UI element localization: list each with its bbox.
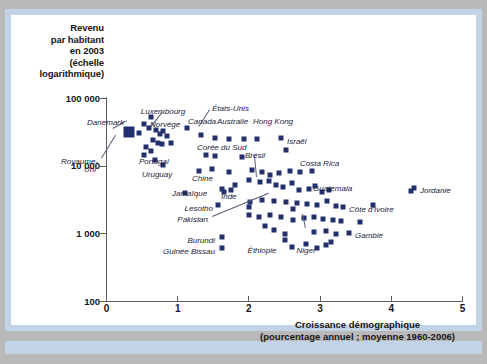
figure-root: Revenu par habitant en 2003 (échelle log… (0, 0, 487, 364)
data-point (276, 170, 281, 175)
data-point (239, 155, 244, 160)
data-point (241, 136, 246, 141)
y-axis-line (106, 97, 107, 302)
marker-jamaique-row (229, 188, 234, 193)
y-tick-mark (100, 233, 106, 234)
data-point-label: États-Unis (212, 104, 249, 113)
data-point (268, 212, 273, 217)
data-point (262, 224, 267, 229)
data-point (199, 132, 204, 137)
data-point-label: Jordanie (420, 186, 451, 195)
data-point (291, 207, 296, 212)
data-point (271, 227, 276, 232)
data-point-label: Burundi (187, 236, 215, 245)
data-point-label: Côte d'Ivoire (349, 205, 394, 214)
data-point-label: Norvège (150, 120, 180, 129)
data-point (141, 121, 146, 126)
data-point-label: Luxembourg (141, 107, 185, 116)
data-point (148, 149, 153, 154)
data-point (339, 218, 344, 223)
data-point-label: Chine (192, 174, 213, 183)
data-point-label: Corée du Sud (197, 143, 246, 152)
y-tick-label: 1 000 (38, 228, 100, 239)
x-tick-label: 3 (317, 303, 323, 314)
x-tick-mark (320, 296, 321, 302)
data-point (212, 135, 217, 140)
data-point (278, 215, 283, 220)
data-point (282, 237, 287, 242)
data-point (283, 199, 288, 204)
data-point (325, 198, 330, 203)
data-point (282, 231, 287, 236)
data-point (212, 154, 217, 159)
data-point (255, 136, 260, 141)
x-axis-title-line-2: (pourcentage annuel ; moyenne 1960-2006) (235, 331, 480, 343)
data-point-label: Uruguay (142, 170, 172, 179)
y-tick-mark (100, 166, 106, 167)
x-axis-title-line-1: Croissance démographique (235, 319, 480, 331)
y-tick-mark (100, 301, 106, 302)
marker-guinee-bissau (220, 246, 225, 251)
data-point (226, 169, 231, 174)
y-axis-title-line-5: logarithmique) (8, 68, 104, 80)
data-point-label: Gambie (355, 231, 383, 240)
x-tick-mark (177, 296, 178, 302)
marker-inde (222, 190, 227, 195)
marker-lesotho (216, 203, 221, 208)
x-axis-title: Croissance démographique (pourcentage an… (235, 319, 480, 343)
data-point (312, 214, 317, 219)
data-point (165, 133, 170, 138)
data-point-label: Niger (296, 246, 315, 255)
data-point-label: Danemark (87, 118, 124, 127)
data-point (333, 231, 338, 236)
data-point (305, 201, 310, 206)
x-tick-mark (462, 296, 463, 302)
annotation-leader-line (101, 135, 116, 159)
data-point (288, 169, 293, 174)
y-axis-title-line-1: Revenu (8, 22, 104, 34)
data-point-label: Guatemala (313, 184, 352, 193)
data-point (289, 244, 294, 249)
data-point (320, 217, 325, 222)
data-point (246, 178, 251, 183)
data-point (330, 218, 335, 223)
data-point (307, 186, 312, 191)
data-point (281, 185, 286, 190)
data-point-label: Éthiopie (248, 246, 277, 255)
data-point-label: Israël (287, 137, 307, 146)
x-tick-label: 1 (175, 303, 181, 314)
y-tick-label: 100 000 (38, 93, 100, 104)
y-axis-title-line-3: en 2003 (8, 45, 104, 57)
y-tick-label: 100 (38, 296, 100, 307)
data-point (209, 166, 214, 171)
data-point (295, 200, 300, 205)
data-point (273, 182, 278, 187)
data-point (291, 218, 296, 223)
x-tick-label: 5 (460, 303, 466, 314)
data-point (271, 198, 276, 203)
data-point (259, 197, 264, 202)
data-point (259, 169, 264, 174)
data-point-label: Brésil (245, 151, 265, 160)
data-point (312, 230, 317, 235)
data-point (309, 169, 314, 174)
x-tick-mark (248, 296, 249, 302)
y-axis-title-line-4: (échelle (8, 57, 104, 69)
data-point-label: Australie (217, 117, 248, 126)
data-point (298, 169, 303, 174)
data-point (315, 202, 320, 207)
data-point-label: Jamaïque (172, 189, 207, 198)
marker-burundi (220, 235, 225, 240)
marker-cote-ivoire (341, 205, 346, 210)
data-point (168, 140, 173, 145)
data-point (268, 172, 273, 177)
data-point (204, 153, 209, 158)
data-point (357, 219, 362, 224)
x-tick-label: 4 (389, 303, 395, 314)
data-point-highlight-denmark (123, 126, 134, 137)
data-point-label: Costa Rica (300, 159, 339, 168)
data-point (329, 239, 334, 244)
x-tick-label: 2 (246, 303, 252, 314)
data-point (323, 229, 328, 234)
x-axis-line (106, 301, 463, 302)
